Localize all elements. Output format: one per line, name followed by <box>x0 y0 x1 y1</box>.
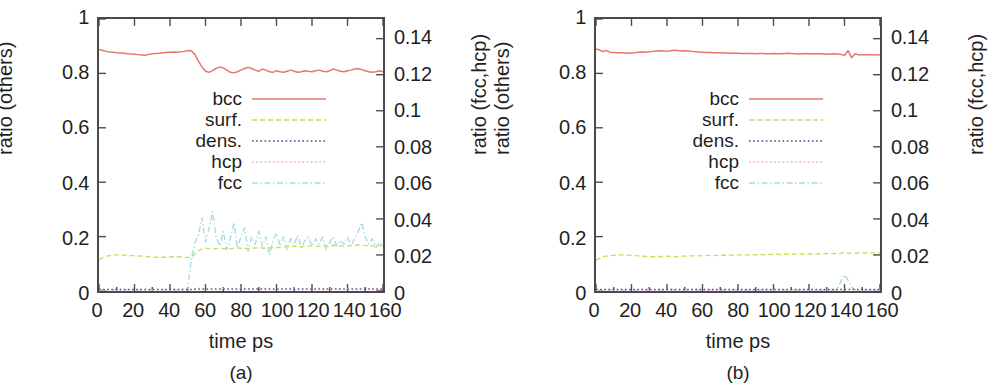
x-tick-label: 80 <box>727 299 749 322</box>
x-tick-label: 40 <box>158 299 180 322</box>
legend-swatch-dens <box>748 134 824 148</box>
series-line-bcc <box>596 49 880 58</box>
legend-swatch-bcc <box>251 92 327 106</box>
y-axis-left-title-b: ratio (others) <box>491 42 514 155</box>
x-tick-label: 20 <box>619 299 641 322</box>
legend-label: fcc <box>653 172 748 194</box>
series-line-surf <box>99 245 383 260</box>
panel-a: 00.20.40.60.8100.020.040.060.080.10.120.… <box>0 0 496 386</box>
x-tick-label: 160 <box>369 299 401 322</box>
y-right-tick-label: 0.14 <box>394 25 432 48</box>
legend-a: bccsurf.dens.hcpfcc <box>156 88 328 193</box>
y-axis-right-title-b: ratio (fcc,hcp) <box>965 34 988 155</box>
y-right-tick-label: 0.06 <box>394 172 432 195</box>
x-tick-label: 80 <box>230 299 252 322</box>
subcaption-b: (b) <box>726 362 749 384</box>
legend-item-hcp[interactable]: hcp <box>653 151 825 172</box>
legend-swatch-hcp <box>748 155 824 169</box>
x-tick-label: 40 <box>655 299 677 322</box>
x-tick-label: 0 <box>589 299 600 322</box>
x-tick-label: 140 <box>830 299 862 322</box>
legend-label: fcc <box>156 172 251 194</box>
y-left-tick-label: 0.4 <box>0 171 89 194</box>
legend-swatch-dens <box>251 134 327 148</box>
y-right-tick-label: 0.1 <box>394 99 421 122</box>
y-right-tick-label: 0.02 <box>891 245 929 268</box>
y-right-tick-label: 0.12 <box>394 62 432 85</box>
legend-label: surf. <box>156 109 251 131</box>
x-tick-label: 20 <box>122 299 144 322</box>
x-tick-label: 120 <box>794 299 826 322</box>
legend-swatch-hcp <box>251 155 327 169</box>
legend-item-dens[interactable]: dens. <box>156 130 328 151</box>
legend-item-bcc[interactable]: bcc <box>653 88 825 109</box>
legend-swatch-surf <box>251 113 327 127</box>
legend-b: bccsurf.dens.hcpfcc <box>653 88 825 193</box>
x-tick-label: 160 <box>866 299 898 322</box>
x-tick-label: 60 <box>194 299 216 322</box>
legend-label: dens. <box>653 130 748 152</box>
x-tick-label: 140 <box>333 299 365 322</box>
legend-label: dens. <box>156 130 251 152</box>
x-tick-label: 120 <box>297 299 329 322</box>
legend-item-dens[interactable]: dens. <box>653 130 825 151</box>
legend-label: bcc <box>156 88 251 110</box>
y-axis-right-title-a: ratio (fcc,hcp) <box>468 34 491 155</box>
y-left-tick-label: 0.2 <box>497 226 586 249</box>
y-right-tick-label: 0.1 <box>891 99 918 122</box>
y-left-tick-label: 0 <box>0 282 89 305</box>
y-right-tick-label: 0.12 <box>891 62 929 85</box>
legend-label: bcc <box>653 88 748 110</box>
legend-swatch-surf <box>748 113 824 127</box>
x-tick-label: 100 <box>758 299 790 322</box>
panel-b: 00.20.40.60.8100.020.040.060.080.10.120.… <box>497 0 993 386</box>
legend-item-surf[interactable]: surf. <box>156 109 328 130</box>
x-tick-label: 0 <box>92 299 103 322</box>
y-axis-left-title-a: ratio (others) <box>0 42 17 155</box>
series-line-surf <box>596 252 880 260</box>
y-right-tick-label: 0.08 <box>891 135 929 158</box>
legend-item-fcc[interactable]: fcc <box>156 172 328 193</box>
legend-swatch-bcc <box>748 92 824 106</box>
legend-label: surf. <box>653 109 748 131</box>
subcaption-a: (a) <box>229 362 252 384</box>
legend-item-fcc[interactable]: fcc <box>653 172 825 193</box>
y-left-tick-label: 1 <box>497 6 586 29</box>
legend-swatch-fcc <box>748 176 824 190</box>
y-left-tick-label: 0.4 <box>497 171 586 194</box>
legend-label: hcp <box>156 151 251 173</box>
legend-item-bcc[interactable]: bcc <box>156 88 328 109</box>
legend-item-surf[interactable]: surf. <box>653 109 825 130</box>
x-tick-label: 100 <box>261 299 293 322</box>
series-line-fcc <box>99 212 383 290</box>
series-line-bcc <box>99 49 383 72</box>
y-right-tick-label: 0.08 <box>394 135 432 158</box>
figure-two-panel-plot: 00.20.40.60.8100.020.040.060.080.10.120.… <box>0 0 993 386</box>
x-axis-title-a: time ps <box>209 330 273 353</box>
y-right-tick-label: 0.02 <box>394 245 432 268</box>
y-left-tick-label: 1 <box>0 6 89 29</box>
y-right-tick-label: 0.04 <box>891 208 929 231</box>
y-right-tick-label: 0.04 <box>394 208 432 231</box>
legend-swatch-fcc <box>251 176 327 190</box>
x-tick-label: 60 <box>691 299 713 322</box>
y-left-tick-label: 0.2 <box>0 226 89 249</box>
y-left-tick-label: 0 <box>497 282 586 305</box>
y-right-tick-label: 0.14 <box>891 25 929 48</box>
x-axis-title-b: time ps <box>706 330 770 353</box>
legend-label: hcp <box>653 151 748 173</box>
y-right-tick-label: 0.06 <box>891 172 929 195</box>
legend-item-hcp[interactable]: hcp <box>156 151 328 172</box>
